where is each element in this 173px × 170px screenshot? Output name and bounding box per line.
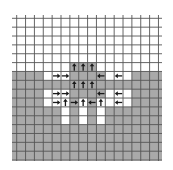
- empty-cell: [105, 89, 114, 98]
- empty-cell: [79, 116, 88, 125]
- empty-cell: [123, 98, 132, 107]
- empty-cell: [96, 107, 105, 116]
- empty-cell: [43, 71, 52, 80]
- empty-cell: [79, 107, 88, 116]
- empty-cell: [61, 107, 70, 116]
- empty-cell: [105, 98, 114, 107]
- empty-cell: [123, 71, 132, 80]
- empty-cell: [43, 98, 52, 107]
- empty-cell: [96, 116, 105, 125]
- empty-cell: [61, 116, 70, 125]
- empty-cell: [105, 71, 114, 80]
- empty-cell: [43, 89, 52, 98]
- empty-cell: [123, 89, 132, 98]
- grid-diagram: [0, 0, 173, 170]
